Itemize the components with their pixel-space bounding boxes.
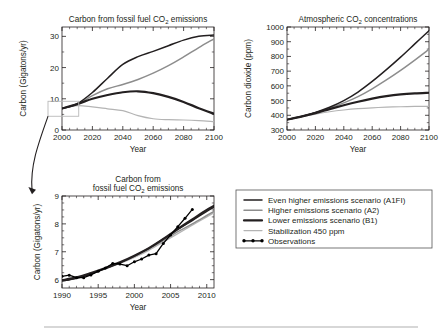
emissions-recent-inset-title-line1: Carbon from: [115, 175, 161, 184]
emissions-projection-xticklabel: 2080: [175, 133, 193, 142]
legend-label-b1: Lower emissions scenario (B1): [268, 216, 378, 225]
emissions-recent-inset-observations: [61, 208, 194, 279]
atmospheric-concentration-title-text: Atmospheric CO2 concentrations: [299, 15, 418, 25]
emissions-recent-inset-observation-point: [140, 258, 143, 261]
emissions-recent-inset-xticklabel: 2000: [125, 291, 143, 300]
emissions-recent-inset-observation-point: [104, 266, 107, 269]
legend-label-obs: Observations: [268, 237, 315, 246]
emissions-recent-inset-xticklabel: 1990: [53, 291, 71, 300]
emissions-recent-inset-title-line2: fossil fuel CO2 emissions: [93, 184, 184, 194]
atmospheric-concentration-yaxis-label: Carbon dioxide (ppm): [244, 39, 253, 118]
atmospheric-concentration-xticklabel: 2040: [335, 133, 353, 142]
emissions-recent-inset-observations-line: [62, 209, 192, 277]
emissions-recent-inset-observation-point: [169, 234, 172, 237]
emissions-projection-xticklabel: 2020: [84, 133, 102, 142]
emissions-projection-plot-frame: [62, 27, 214, 130]
emissions-projection-series-a1fi: [62, 35, 214, 108]
emissions-projection-xticklabel: 2060: [144, 133, 162, 142]
emissions-recent-inset-observation-point: [147, 254, 150, 257]
figure-root: Carbon from fossil fuel CO2 emissions200…: [0, 0, 441, 336]
emissions-recent-inset-xticklabel: 2005: [162, 291, 180, 300]
connector-line: [32, 116, 48, 190]
emissions-recent-inset-observation-point: [82, 276, 85, 279]
inset-connector: [28, 116, 48, 194]
emissions-recent-inset-observation-point: [118, 263, 121, 266]
emissions-recent-inset-yaxis-label: Carbon (Gigatons/yr): [33, 204, 42, 281]
atmospheric-concentration-xticklabel: 2100: [420, 133, 438, 142]
legend-swatch-marker: [260, 239, 263, 242]
emissions-recent-inset-series-group: [62, 206, 214, 281]
emissions-recent-inset-observation-point: [184, 217, 187, 220]
atmospheric-concentration-title: Atmospheric CO2 concentrations: [299, 15, 418, 25]
atmospheric-concentration-xaxis-label: Year: [350, 145, 367, 154]
emissions-projection-yticklabel: 20: [50, 64, 59, 73]
atmospheric-concentration-series-group: [287, 31, 429, 120]
emissions-projection-series-stab: [62, 106, 214, 122]
emissions-recent-inset-observation-point: [97, 270, 100, 273]
emissions-recent-inset-observation-point: [68, 274, 71, 277]
atmospheric-concentration-yticklabel: 1000: [266, 23, 284, 32]
atmospheric-concentration-xticklabel: 2020: [307, 133, 325, 142]
emissions-recent-inset-observation-point: [61, 275, 64, 278]
panel-emissions-recent-inset: Carbon fromfossil fuel CO2 emissions1990…: [33, 175, 216, 312]
emissions-recent-inset-observation-point: [126, 264, 129, 267]
emissions-projection-series-group: [62, 35, 214, 121]
emissions-recent-inset-series-stab: [62, 213, 214, 281]
scenario-legend[interactable]: Even higher emissions scenario (A1FI)Hig…: [236, 190, 432, 248]
atmospheric-concentration-yticklabel: 300: [271, 126, 285, 135]
atmospheric-concentration-xticklabel: 2060: [363, 133, 381, 142]
atmospheric-concentration-yticklabel: 800: [271, 52, 285, 61]
emissions-recent-inset-title: Carbon fromfossil fuel CO2 emissions: [93, 175, 184, 194]
legend-item-a1fi[interactable]: Even higher emissions scenario (A1FI): [244, 196, 406, 205]
emissions-recent-inset-yticklabel: 9: [55, 192, 60, 201]
panel-atmospheric-concentration: Atmospheric CO2 concentrations2000202020…: [244, 15, 438, 154]
emissions-projection-title-text: Carbon from fossil fuel CO2 emissions: [69, 15, 208, 25]
emissions-recent-inset-observation-point: [191, 208, 194, 211]
emissions-projection-yticklabel: 0: [55, 126, 60, 135]
emissions-recent-inset-observation-point: [75, 276, 78, 279]
emissions-recent-inset-yticklabel: 7: [55, 248, 60, 257]
emissions-recent-inset-series-a1fi: [62, 207, 214, 281]
emissions-recent-inset-observation-point: [176, 225, 179, 228]
emissions-projection-title: Carbon from fossil fuel CO2 emissions: [69, 15, 208, 25]
legend-label-stab: Stabilization 450 ppm: [268, 227, 345, 236]
emissions-recent-inset-series-b1: [62, 206, 214, 280]
legend-swatch-marker: [242, 239, 245, 242]
emissions-recent-inset-observation-point: [111, 262, 114, 265]
emissions-projection-xaxis-label: Year: [130, 145, 147, 154]
emissions-projection-series-b1: [62, 91, 214, 114]
legend-label-a2: Higher emissions scenario (A2): [268, 206, 379, 215]
emissions-recent-inset-observation-point: [89, 273, 92, 276]
emissions-projection-yaxis-label: Carbon (Gigatons/yr): [19, 40, 28, 117]
emissions-projection-yticklabel: 10: [50, 95, 59, 104]
atmospheric-concentration-yticklabel: 500: [271, 97, 285, 106]
emissions-projection-xticklabel: 2040: [114, 133, 132, 142]
atmospheric-concentration-yticklabel: 900: [271, 38, 285, 47]
emissions-recent-inset-xticklabel: 2010: [198, 291, 216, 300]
legend-swatch-marker: [251, 239, 254, 242]
emissions-recent-inset-observation-point: [155, 252, 158, 255]
atmospheric-concentration-xticklabel: 2080: [392, 133, 410, 142]
emissions-projection-yticklabel: 30: [50, 32, 59, 41]
emissions-recent-inset-observation-point: [162, 242, 165, 245]
emissions-recent-inset-yticklabel: 8: [55, 220, 60, 229]
atmospheric-concentration-yticklabel: 700: [271, 67, 285, 76]
emissions-recent-inset-xaxis-label: Year: [130, 303, 147, 312]
emissions-recent-inset-yticklabel: 6: [55, 276, 60, 285]
atmospheric-concentration-yticklabel: 400: [271, 111, 285, 120]
emissions-recent-inset-observation-point: [133, 260, 136, 263]
atmospheric-concentration-series-stab: [287, 106, 429, 119]
emissions-recent-inset-xticklabel: 1995: [89, 291, 107, 300]
legend-label-a1fi: Even higher emissions scenario (A1FI): [268, 196, 406, 205]
emissions-projection-xticklabel: 2100: [205, 133, 223, 142]
panel-emissions-projection: Carbon from fossil fuel CO2 emissions200…: [19, 15, 223, 154]
atmospheric-concentration-yticklabel: 600: [271, 82, 285, 91]
